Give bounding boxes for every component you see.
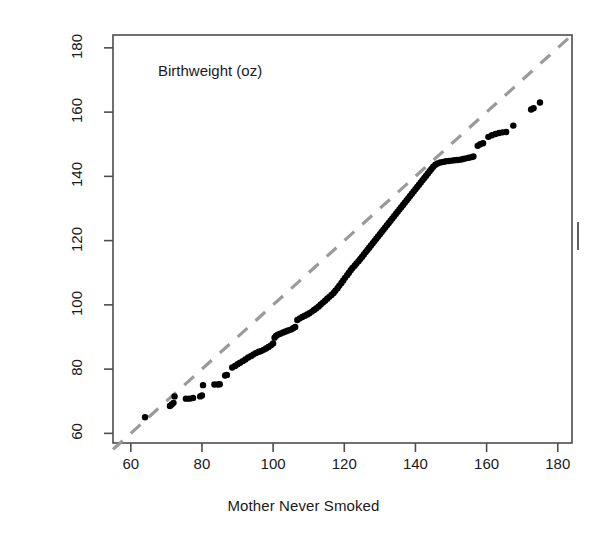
y-tick-label: 80 [68, 345, 85, 391]
qq-plot-figure: Birthweight (oz) Mother Never Smoked Mot… [0, 0, 607, 550]
y-tick-label: 60 [68, 409, 85, 455]
x-tick-label: 60 [122, 455, 139, 472]
x-tick-label: 120 [332, 455, 357, 472]
x-tick-label: 140 [403, 455, 428, 472]
x-tick-label: 80 [194, 455, 211, 472]
plot-background [0, 0, 607, 550]
y-tick-label: 100 [68, 280, 85, 326]
plot-canvas [0, 0, 607, 550]
x-axis-title: Mother Never Smoked [0, 497, 607, 514]
y-tick-label: 120 [68, 216, 85, 262]
x-tick-label: 160 [474, 455, 499, 472]
x-tick-label: 180 [545, 455, 570, 472]
plot-title: Birthweight (oz) [158, 62, 262, 79]
x-tick-label: 100 [261, 455, 286, 472]
y-tick-label: 180 [68, 23, 85, 69]
y-tick-label: 140 [68, 152, 85, 198]
y-tick-label: 160 [68, 88, 85, 134]
